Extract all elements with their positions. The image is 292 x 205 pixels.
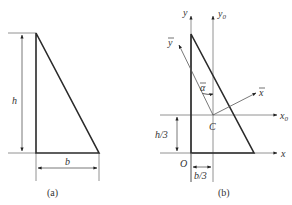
panel-b: y y0 x x0 y x α C O h/3 b/3 (b) [155,7,288,199]
b-third-label: b/3 [194,170,207,181]
caption-a: (a) [47,187,58,199]
y0-axis-label: y0 [217,8,226,21]
triangle-centroid-diagram: h b (a) y y0 x x0 y x α C O [0,0,292,205]
x0-axis-label: x0 [279,110,288,123]
panel-a: h b (a) [8,33,99,199]
ybar-axis-label: y [167,37,173,48]
x-axis-label: x [280,148,286,159]
angle-label: α [200,82,206,93]
ybar-axis [179,45,213,115]
xbar-axis-label: x [258,87,264,98]
caption-b: (b) [218,187,230,199]
y-axis-label: y [182,7,188,18]
origin-label: O [180,158,187,169]
triangle-a [36,33,99,153]
xbar-axis [213,93,256,115]
height-label: h [12,95,17,106]
h-third-label: h/3 [155,129,168,140]
triangle-b [191,34,254,153]
angle-arc [203,94,214,95]
centroid-label: C [209,121,216,132]
base-label: b [65,156,70,167]
